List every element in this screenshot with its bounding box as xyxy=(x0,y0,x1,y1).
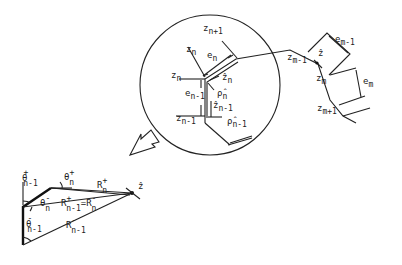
label-theta-plus-n-minus-1: θ+n-1 xyxy=(22,168,38,188)
label-e-n-minus-1: en-1 xyxy=(185,88,205,101)
label-rhohat-n: ρ̂n xyxy=(217,88,227,101)
label-zhat-point: ẑ xyxy=(138,181,143,191)
label-theta-minus-n: θ-n xyxy=(40,194,50,213)
label-e-n: en xyxy=(207,50,217,63)
label-theta-minus-n-minus-1: θ-n-1 xyxy=(26,214,42,234)
label-z-n-minus-1: zn-1 xyxy=(176,113,196,126)
label-z-m: zm xyxy=(316,73,326,86)
zhat-point-right xyxy=(315,61,318,64)
label-rhohat-n-minus-1: ρ̂n-1 xyxy=(227,116,247,129)
label-theta-plus-n: θ+n xyxy=(64,168,74,187)
label-e-m-minus-1: em-1 xyxy=(335,34,355,47)
label-zhat: ẑ xyxy=(318,48,323,58)
label-z-n-plus-1: zn+1 xyxy=(203,23,223,36)
label-R-equality: R+n-1=R-n xyxy=(61,194,96,213)
label-z-n-top: zn xyxy=(186,44,196,57)
label-e-m: em xyxy=(363,76,373,89)
zoom-arrow-icon xyxy=(130,130,159,155)
contour-polyline xyxy=(205,50,370,145)
triangle-detail xyxy=(23,182,140,245)
label-zhat-n: ẑn xyxy=(222,72,232,85)
diagram-canvas: zn+1 zn en zn ẑn en-1 ρ̂n ẑn-1 zn-1 ρ̂n-… xyxy=(0,0,402,265)
label-z-n-left: zn xyxy=(171,70,181,83)
label-R-minus-n-minus-1: R-n-1 xyxy=(66,216,86,235)
label-zhat-n-minus-1: ẑn-1 xyxy=(213,100,233,113)
